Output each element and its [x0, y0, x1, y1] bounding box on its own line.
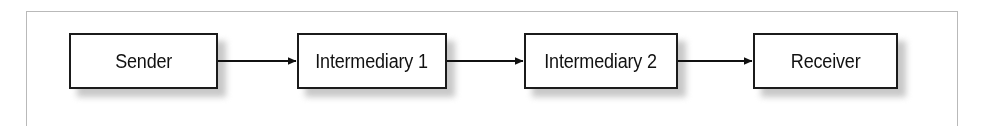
node-label-receiver: Receiver: [791, 51, 861, 71]
node-sender: Sender: [69, 33, 218, 89]
node-receiver: Receiver: [753, 33, 898, 89]
node-label-intermediary-2: Intermediary 2: [545, 51, 658, 71]
node-label-sender: Sender: [115, 51, 172, 71]
node-intermediary-2: Intermediary 2: [524, 33, 678, 89]
figure-root: Sender Intermediary 1 Intermediary 2 Rec…: [0, 0, 987, 126]
node-intermediary-1: Intermediary 1: [297, 33, 447, 89]
node-label-intermediary-1: Intermediary 1: [316, 51, 429, 71]
